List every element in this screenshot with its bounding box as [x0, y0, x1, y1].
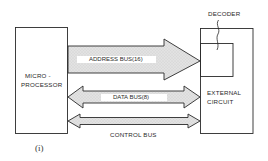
external-circuit-label-line2: CIRCUIT: [207, 98, 234, 106]
microprocessor-label-line1: MICRO -: [25, 72, 51, 80]
control-bus-arrow: [68, 114, 200, 128]
control-bus-label: CONTROL BUS: [110, 131, 157, 139]
decoder-label: DECODER: [208, 10, 240, 18]
external-circuit-label-line1: EXTERNAL: [207, 89, 241, 97]
address-bus-label: ADDRESS BUS(16): [77, 56, 156, 63]
external-circuit-box: [201, 29, 254, 134]
figure-caption: (i): [35, 143, 44, 153]
microprocessor-label-line2: PROCESSOR: [21, 81, 62, 89]
data-bus-label: DATA BUS(8): [101, 94, 167, 101]
